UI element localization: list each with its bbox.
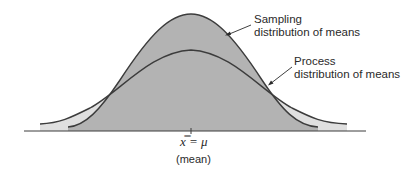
mean-symbol-label: x̿ = μ	[180, 134, 208, 150]
sampling-label: Sampling distribution of means	[254, 13, 360, 39]
sampling-label-line2: distribution of means	[254, 26, 360, 39]
process-label-line2: distribution of means	[294, 68, 400, 81]
process-arrowhead	[268, 81, 274, 86]
sampling-label-line1: Sampling	[254, 13, 360, 26]
process-label-line1: Process	[294, 55, 400, 68]
process-leader-line	[270, 67, 292, 84]
mean-caption: (mean)	[176, 153, 211, 165]
sampling-leader-line	[227, 25, 251, 35]
process-label: Process distribution of means	[294, 55, 400, 81]
